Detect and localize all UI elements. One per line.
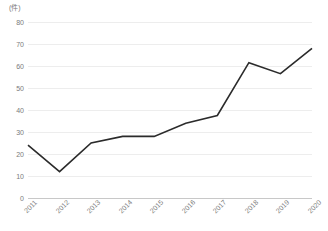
x-axis-tick-label: 2012 <box>54 198 70 214</box>
x-axis-tick-label: 2019 <box>275 198 291 214</box>
data-series-line <box>28 22 312 198</box>
x-axis-tick-label: 2014 <box>117 198 133 214</box>
x-axis-tick-label: 2020 <box>306 198 322 214</box>
series-polyline <box>28 48 312 171</box>
x-axis-baseline <box>28 198 312 199</box>
x-axis-tick-label: 2018 <box>243 198 259 214</box>
y-axis-tick-label: 60 <box>16 63 24 70</box>
y-axis-tick-label: 80 <box>16 19 24 26</box>
plot-area: 01020304050607080 2011201220132014201520… <box>28 22 312 198</box>
line-chart: (件) 01020304050607080 201120122013201420… <box>0 0 328 231</box>
y-axis-unit-label: (件) <box>9 2 21 12</box>
x-axis-tick-label: 2016 <box>180 198 196 214</box>
x-axis-tick-label: 2017 <box>212 198 228 214</box>
y-axis-tick-label: 30 <box>16 129 24 136</box>
x-axis-tick-label: 2011 <box>23 199 39 215</box>
y-axis-tick-label: 50 <box>16 85 24 92</box>
x-axis-tick-label: 2013 <box>86 198 102 214</box>
x-axis-tick-label: 2015 <box>149 198 165 214</box>
y-axis-tick-label: 40 <box>16 107 24 114</box>
y-axis-tick-label: 0 <box>20 195 24 202</box>
y-axis-tick-label: 20 <box>16 151 24 158</box>
y-axis-tick-label: 10 <box>16 173 24 180</box>
y-axis-tick-label: 70 <box>16 41 24 48</box>
